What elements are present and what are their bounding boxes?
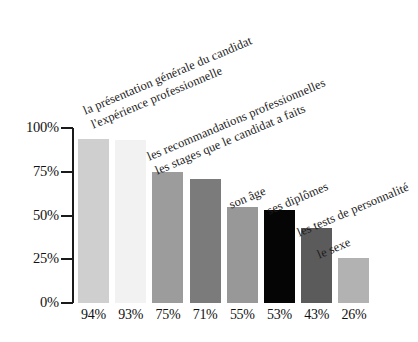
y-axis-tick-label: 25% [0,250,59,266]
bar-value-label: 43% [297,307,337,323]
bar-chart: 100%75%50%25%0% 94%93%75%71%55%53%43%26%… [0,0,418,342]
bar-value-label: 26% [334,307,374,323]
bar [227,207,258,303]
bar [190,179,221,303]
bar [115,140,146,303]
bar [301,228,332,303]
bar [264,210,295,303]
bar-value-label: 53% [260,307,300,323]
y-axis-tick [61,215,73,217]
y-axis-tick [61,127,73,129]
y-axis-tick [61,302,73,304]
y-axis-tick-label-text: 0% [40,294,59,311]
y-axis-tick-label: 75% [0,163,59,179]
bar-value-label: 94% [74,307,114,323]
y-axis-tick [61,258,73,260]
bar-value-label: 93% [111,307,151,323]
y-axis-tick [61,171,73,173]
y-axis-tick-label-text: 50% [33,207,59,224]
y-axis-tick-label: 50% [0,207,59,223]
bar [338,258,369,304]
y-axis-tick-label: 0% [0,294,59,310]
y-axis-tick-label-text: 100% [26,119,59,136]
y-axis-tick-label-text: 25% [33,250,59,267]
bar-value-label: 55% [222,307,262,323]
bar [78,139,109,304]
bar [152,172,183,303]
y-axis-tick-label-text: 75% [33,163,59,180]
category-label: la présentation générale du candidat [81,34,254,119]
y-axis-tick-label: 100% [0,119,59,135]
bar-value-label: 75% [148,307,188,323]
bar-value-label: 71% [185,307,225,323]
